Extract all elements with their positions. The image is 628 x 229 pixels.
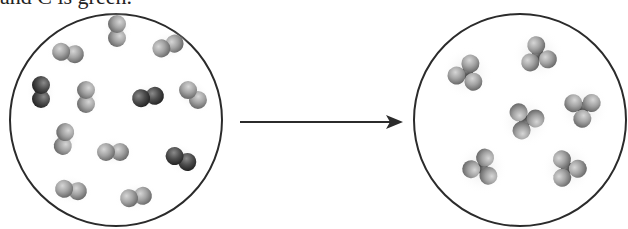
reactants-panel [10,9,222,226]
light-diatomic-molecule [71,75,101,119]
atom [97,143,115,161]
atom [108,15,126,33]
reaction-diagram [0,0,628,229]
light-diatomic-molecule [91,137,135,167]
products-panel [414,14,626,226]
reaction-arrow [240,115,403,129]
light-diatomic-molecule [102,9,132,53]
dark-diatomic-molecule [26,70,56,114]
atom [77,81,95,99]
atom [32,76,50,94]
